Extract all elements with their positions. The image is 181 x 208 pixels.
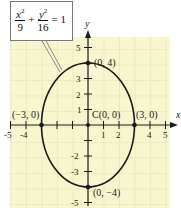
fraction-x-term: x2 9 bbox=[15, 5, 25, 33]
y-tick-label: -3 bbox=[71, 167, 79, 177]
x-tick-label: 1 bbox=[101, 130, 106, 140]
label-center: C(0, 0) bbox=[92, 109, 120, 121]
y-axis-label: y bbox=[84, 18, 90, 29]
equation-callout: x2 9 + y2 16 = 1 bbox=[10, 1, 73, 41]
vertex-left-point bbox=[39, 123, 44, 128]
vertex-top-point bbox=[86, 61, 91, 66]
y-tick-label: -5 bbox=[71, 198, 79, 208]
x-axis-arrow-icon bbox=[170, 122, 178, 128]
y-tick-label: 1 bbox=[77, 105, 82, 115]
x-axis-label: x bbox=[175, 109, 181, 120]
ellipse-equation: x2 9 + y2 16 = 1 bbox=[15, 5, 66, 33]
y-tick-label: -2 bbox=[71, 151, 79, 161]
label-right-vertex: (3, 0) bbox=[136, 109, 158, 121]
x-tick-label: -5 bbox=[4, 130, 12, 140]
label-top-vertex: (0, 4) bbox=[94, 57, 116, 69]
y-tick-label: 3 bbox=[76, 74, 81, 84]
fraction-y-term: y2 16 bbox=[38, 5, 49, 33]
label-bottom-vertex: (0, −4) bbox=[93, 187, 120, 199]
x-tick-label: 2 bbox=[116, 130, 121, 140]
center-point bbox=[86, 123, 90, 127]
y-tick-label: 5 bbox=[76, 43, 81, 53]
x-tick-label: 5 bbox=[163, 130, 168, 140]
equals-one: = 1 bbox=[52, 13, 66, 25]
y-axis-arrow-icon bbox=[85, 30, 91, 38]
plus-sign: + bbox=[28, 13, 34, 25]
label-left-vertex: (−3, 0) bbox=[12, 109, 39, 121]
vertex-right-point bbox=[132, 123, 137, 128]
y-tick-label: 2 bbox=[76, 90, 81, 100]
x-tick-label: 4 bbox=[147, 130, 152, 140]
x-tick-label: -4 bbox=[20, 130, 28, 140]
vertex-bottom-point bbox=[86, 185, 91, 190]
